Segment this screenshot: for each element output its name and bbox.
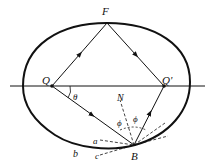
label-b: b [73, 148, 78, 159]
label-q: Q [42, 74, 50, 86]
label-qprime: Q' [162, 74, 173, 86]
label-b-point: B [131, 150, 138, 162]
reflection-ellipse-diagram: F Q Q' θ N ϕ ϕ a b c B [0, 0, 209, 164]
label-n: N [116, 92, 125, 103]
ray-b-to-qprime [134, 86, 164, 145]
label-f: F [101, 5, 109, 17]
theta-arc [68, 86, 71, 98]
tangent-line-right-1 [134, 136, 168, 145]
label-phi-left: ϕ [117, 118, 122, 128]
label-phi-right: ϕ [133, 114, 138, 124]
label-c: c [95, 151, 99, 161]
label-a: a [93, 136, 98, 146]
point-q [50, 84, 54, 88]
tangent-line-c [100, 145, 134, 155]
normal-line [120, 100, 134, 145]
label-theta: θ [73, 92, 78, 102]
